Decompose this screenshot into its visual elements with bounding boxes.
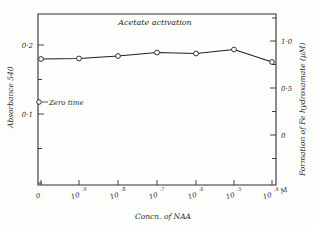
data-point[interactable] — [270, 60, 275, 65]
data-point[interactable] — [77, 56, 82, 61]
zero-time-marker[interactable] — [37, 100, 42, 105]
zero-time-label: Zero time — [48, 99, 84, 107]
left-axis-title: Absorbance 540 — [6, 66, 15, 129]
x-tick-label-0: 0 — [35, 191, 42, 200]
chart-title: Acetate activation — [117, 18, 192, 27]
x-tick-label-2-exponent: -8 — [120, 185, 126, 192]
x-tick-label-2-base: 10 — [109, 191, 120, 202]
right-tick-label-0_5: 0·5 — [281, 85, 293, 93]
right-axis-title: Formation of Fe hydroxamate (μM) — [298, 43, 307, 177]
left-tick-label-0_1: 0·1 — [22, 111, 33, 119]
x-tick-label-3: 10 -7 — [147, 185, 168, 201]
chart-canvas: 0·2 0·1 Absorbance 540 1·0 0·5 0 Formati… — [0, 0, 313, 227]
data-point[interactable] — [155, 50, 160, 55]
x-tick-label-4-exponent: -6 — [198, 185, 205, 192]
left-tick-label-0_2: 0·2 — [22, 42, 34, 50]
x-tick-label-1-base: 10 — [70, 191, 81, 202]
x-tick-label-5-exponent: -5 — [236, 185, 242, 192]
zero-time-annotation: Zero time — [37, 99, 84, 107]
x-tick-label-3-exponent: -7 — [159, 185, 166, 192]
bottom-axis-ticks — [41, 180, 272, 185]
x-tick-label-6-unit: M — [279, 185, 290, 195]
data-point[interactable] — [232, 47, 237, 52]
right-tick-label-0: 0 — [281, 132, 286, 140]
x-tick-label-5: 10 -5 — [224, 185, 244, 201]
x-tick-label-1: 10 -9 — [69, 185, 90, 201]
data-point[interactable] — [194, 51, 199, 56]
x-axis-title: Concn. of NAA — [135, 212, 192, 221]
data-point[interactable] — [116, 54, 121, 59]
x-tick-label-6-base: 10 — [262, 191, 273, 202]
right-tick-label-1_0: 1·0 — [281, 38, 293, 46]
x-tick-label-4: 10 -6 — [186, 185, 207, 201]
series-markers — [39, 47, 275, 64]
left-axis-ticks — [38, 45, 44, 183]
figure-container: 0·2 0·1 Absorbance 540 1·0 0·5 0 Formati… — [0, 0, 313, 227]
x-tick-label-3-base: 10 — [148, 191, 159, 202]
x-tick-label-2: 10 -8 — [108, 185, 128, 201]
right-axis-ticks — [270, 18, 276, 159]
data-point[interactable] — [39, 57, 44, 62]
x-tick-label-6-exponent: -4 — [273, 185, 279, 192]
x-tick-label-5-base: 10 — [225, 191, 236, 202]
x-tick-label-1-exponent: -9 — [81, 185, 88, 192]
x-tick-label-4-base: 10 — [187, 191, 198, 202]
